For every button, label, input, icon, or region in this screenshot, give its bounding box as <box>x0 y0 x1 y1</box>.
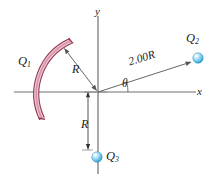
label-charge-q1: Q1 <box>18 55 31 68</box>
dimension-distance-q2 <box>98 62 191 92</box>
label-radius-q3: R <box>81 118 88 130</box>
charge-q1-arc <box>36 38 73 119</box>
label-angle-theta: θ <box>122 78 128 90</box>
label-charge-q2: Q2 <box>186 32 199 45</box>
charge-q2-sphere <box>193 53 203 63</box>
dimension-radius-arc <box>65 49 97 91</box>
charge-q3-sphere <box>92 152 102 162</box>
label-y-axis: y <box>95 6 100 17</box>
axis-lines <box>14 16 196 174</box>
label-charge-q3: Q3 <box>106 150 119 163</box>
label-x-axis: x <box>197 86 202 97</box>
label-radius-arc: R <box>72 63 79 75</box>
figure-canvas: Q1 Q2 Q3 x y R R 2.00R θ <box>0 0 214 177</box>
